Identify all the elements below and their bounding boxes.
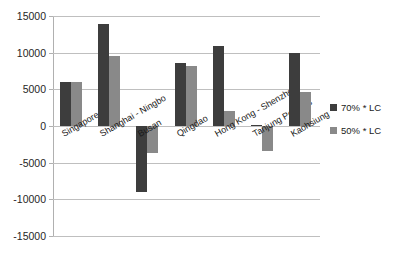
legend-item-series-50: 50% * LC: [330, 126, 400, 136]
y-axis-tick: [49, 16, 53, 17]
series-70-swatch-icon: [330, 104, 337, 111]
bar-series-50: [109, 56, 120, 126]
y-axis-tick: [49, 126, 53, 127]
plot-area: SingaporeShanghai - NingboBusanQingdaoHo…: [53, 16, 320, 236]
bar-series-70: [60, 82, 71, 126]
y-axis-tick-label: -5000: [19, 157, 46, 169]
y-axis-tick: [49, 163, 53, 164]
y-axis-tick: [49, 53, 53, 54]
y-axis-tick: [49, 199, 53, 200]
series-50-swatch-icon: [330, 127, 337, 134]
y-axis-tick-label: 5000: [23, 83, 46, 95]
chart-legend: 70% * LC 50% * LC: [330, 103, 400, 148]
bar-series-50: [186, 66, 197, 126]
legend-label-series-70: 70% * LC: [341, 103, 381, 113]
bar-series-70: [213, 46, 224, 126]
bar-series-70: [98, 24, 109, 126]
bar-chart: 150001000050000-5000-10000-15000 Singapo…: [0, 0, 400, 254]
gridline: [53, 236, 320, 237]
y-axis-tick-label: 15000: [17, 10, 46, 22]
bar-series-70: [289, 53, 300, 126]
bar-series-70: [175, 63, 186, 126]
y-axis-tick-label: 10000: [17, 47, 46, 59]
legend-item-series-70: 70% * LC: [330, 103, 400, 113]
legend-label-series-50: 50% * LC: [341, 126, 381, 136]
y-axis-tick: [49, 89, 53, 90]
y-axis-tick: [49, 236, 53, 237]
y-axis-tick-label: -15000: [13, 230, 46, 242]
y-axis-labels: 150001000050000-5000-10000-15000: [0, 0, 50, 254]
y-axis-tick-label: 0: [40, 120, 46, 132]
y-axis-tick-label: -10000: [13, 193, 46, 205]
